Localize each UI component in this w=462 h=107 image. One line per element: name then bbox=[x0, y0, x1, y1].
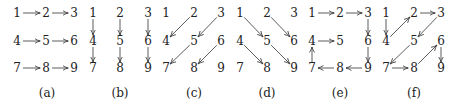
node-4: 4 bbox=[308, 34, 316, 48]
node-6: 6 bbox=[290, 34, 298, 48]
node-2: 2 bbox=[190, 6, 198, 20]
arrow-1-to-5 bbox=[244, 17, 263, 36]
arrow-5-to-7 bbox=[390, 45, 409, 64]
node-3: 3 bbox=[217, 6, 225, 20]
node-3: 3 bbox=[364, 6, 372, 20]
node-7: 7 bbox=[236, 61, 244, 75]
node-7: 7 bbox=[308, 61, 316, 75]
arrow-4-to-8 bbox=[244, 45, 263, 64]
arrow-6-to-8 bbox=[198, 45, 217, 64]
node-2: 2 bbox=[263, 6, 271, 20]
panel-label: (a) bbox=[39, 86, 56, 100]
node-8: 8 bbox=[190, 61, 198, 75]
node-8: 8 bbox=[42, 61, 50, 75]
grid-traversal-diagram: 123456789(a)123456789(b)123456789(c)1234… bbox=[0, 0, 462, 107]
panel-e: 123456789(e) bbox=[308, 6, 372, 100]
panel-c: 123456789(c) bbox=[162, 6, 225, 100]
node-4: 4 bbox=[236, 34, 244, 48]
node-2: 2 bbox=[116, 6, 124, 20]
node-1: 1 bbox=[308, 6, 316, 20]
arrow-5-to-7 bbox=[170, 45, 189, 64]
node-4: 4 bbox=[382, 34, 390, 48]
panel-b: 123456789(b) bbox=[89, 6, 152, 100]
node-1: 1 bbox=[382, 6, 390, 20]
node-4: 4 bbox=[89, 34, 97, 48]
panel-label: (f) bbox=[407, 86, 421, 100]
arrow-8-to-6 bbox=[418, 45, 437, 64]
node-9: 9 bbox=[364, 61, 372, 75]
node-3: 3 bbox=[437, 6, 445, 20]
node-9: 9 bbox=[290, 61, 298, 75]
node-3: 3 bbox=[290, 6, 298, 20]
node-1: 1 bbox=[13, 6, 21, 20]
node-7: 7 bbox=[382, 61, 390, 75]
panel-label: (d) bbox=[258, 86, 275, 100]
node-2: 2 bbox=[42, 6, 50, 20]
node-4: 4 bbox=[162, 34, 170, 48]
node-6: 6 bbox=[217, 34, 225, 48]
node-7: 7 bbox=[162, 61, 170, 75]
node-7: 7 bbox=[89, 61, 97, 75]
node-5: 5 bbox=[190, 34, 198, 48]
node-1: 1 bbox=[162, 6, 170, 20]
panel-label: (e) bbox=[332, 86, 348, 100]
node-5: 5 bbox=[116, 34, 124, 48]
panel-f: 123456789(f) bbox=[382, 6, 445, 100]
arrow-3-to-5 bbox=[198, 17, 217, 36]
panel-d: 123456789(d) bbox=[236, 6, 298, 100]
node-9: 9 bbox=[70, 61, 78, 75]
node-7: 7 bbox=[13, 61, 21, 75]
node-6: 6 bbox=[70, 34, 78, 48]
panel-a: 123456789(a) bbox=[13, 6, 78, 100]
arrow-4-to-2 bbox=[390, 17, 410, 37]
node-5: 5 bbox=[42, 34, 50, 48]
node-3: 3 bbox=[144, 6, 152, 20]
arrow-2-to-6 bbox=[271, 17, 290, 36]
node-6: 6 bbox=[437, 34, 445, 48]
node-5: 5 bbox=[336, 34, 344, 48]
panel-label: (c) bbox=[186, 86, 202, 100]
node-5: 5 bbox=[410, 34, 418, 48]
node-9: 9 bbox=[437, 61, 445, 75]
node-9: 9 bbox=[144, 61, 152, 75]
panel-label: (b) bbox=[111, 86, 128, 100]
node-8: 8 bbox=[410, 61, 418, 75]
node-2: 2 bbox=[336, 6, 344, 20]
node-6: 6 bbox=[144, 34, 152, 48]
node-2: 2 bbox=[410, 6, 418, 20]
arrow-3-to-5 bbox=[418, 17, 437, 36]
node-4: 4 bbox=[13, 34, 21, 48]
node-8: 8 bbox=[116, 61, 124, 75]
node-1: 1 bbox=[236, 6, 244, 20]
node-8: 8 bbox=[263, 61, 271, 75]
node-5: 5 bbox=[263, 34, 271, 48]
arrow-2-to-4 bbox=[170, 17, 190, 37]
node-1: 1 bbox=[89, 6, 97, 20]
arrow-5-to-9 bbox=[271, 45, 290, 64]
node-3: 3 bbox=[70, 6, 78, 20]
node-8: 8 bbox=[336, 61, 344, 75]
node-6: 6 bbox=[364, 34, 372, 48]
node-9: 9 bbox=[217, 61, 225, 75]
